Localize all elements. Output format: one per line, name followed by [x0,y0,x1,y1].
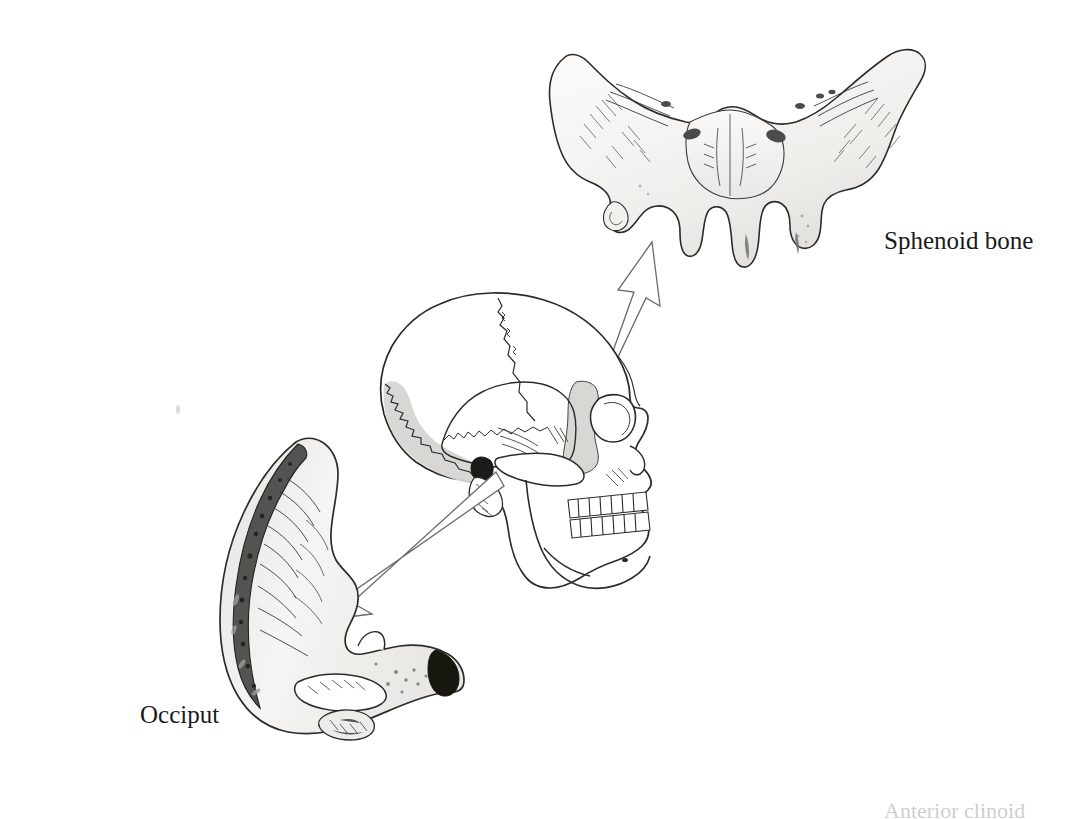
clipped-footnote-label: Anterior clinoid [884,800,1025,819]
occiput-jugular-notch [358,632,385,650]
skull-nasal-aperture [630,446,645,475]
occiput-condyle [319,710,375,740]
occiput-bone-figure [190,424,480,754]
sphenoid-bone-label: Sphenoid bone [884,228,1033,253]
occiput-label: Occiput [140,702,219,727]
scan-artifact-mark [176,405,180,414]
occiput-bone-drawing [190,424,480,754]
skull-orbit [591,395,636,442]
illustration-page: Sphenoid bone [0,0,1082,819]
skull-mental-foramen [622,558,628,562]
